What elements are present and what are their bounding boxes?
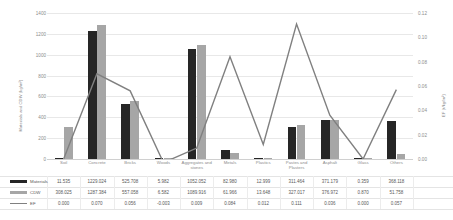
x-axis-label: Concrete — [80, 160, 113, 165]
table-cell: 0.056 — [114, 198, 147, 209]
table-cell: 376.972 — [313, 187, 346, 198]
table-cell: 371.179 — [313, 176, 346, 187]
table-cell: 6.582 — [147, 187, 180, 198]
y-tick-left-0: 0 — [43, 157, 46, 162]
table-cell: 0.000 — [47, 198, 80, 209]
table-cell: 525.708 — [114, 176, 147, 187]
chart-container: Materials and CDW (kg/m²) EF (t/kg/m²) 0… — [0, 0, 453, 220]
x-axis-label: Asphalt — [313, 160, 346, 165]
ef-line-series — [47, 13, 413, 159]
table-row: CDW308.0251287.384557.0586.5821089.91661… — [0, 187, 453, 198]
y-tick-left-1: 200 — [38, 136, 46, 141]
table-cell: 0.036 — [313, 198, 346, 209]
table-cell: 1089.916 — [180, 187, 213, 198]
table-row-separator — [0, 209, 453, 210]
table-cell: 0.111 — [280, 198, 313, 209]
table-cell: 5.982 — [147, 176, 180, 187]
y-tick-right-1: 0.02 — [418, 132, 427, 137]
table-cell: 0.000 — [346, 198, 379, 209]
table-cell: 61.966 — [213, 187, 246, 198]
table-cell: 0.084 — [213, 198, 246, 209]
table-cell: 368.118 — [380, 176, 413, 187]
legend-swatch-cdw — [10, 191, 27, 194]
x-axis-label: Metals — [213, 160, 246, 165]
y-tick-right-6: 0.12 — [418, 11, 427, 16]
table-cell: 311.464 — [280, 176, 313, 187]
y-tick-left-6: 1200 — [36, 31, 46, 36]
table-cell: 1287.384 — [80, 187, 113, 198]
y-tick-left-3: 600 — [38, 94, 46, 99]
legend-swatch-ef — [10, 203, 27, 204]
y-tick-right-0: 0.00 — [418, 157, 427, 162]
table-cell: 82.980 — [213, 176, 246, 187]
table-row: EF0.0000.0700.056-0.0030.0090.0840.0120.… — [0, 198, 453, 209]
table-cell: 0.870 — [346, 187, 379, 198]
table-cell: 557.058 — [114, 187, 147, 198]
table-cell: 308.025 — [47, 187, 80, 198]
table-cell: 12.999 — [247, 176, 280, 187]
y-tick-right-4: 0.08 — [418, 59, 427, 64]
table-cell: 0.009 — [180, 198, 213, 209]
ef-line-path — [64, 24, 397, 159]
table-cell: 1052.052 — [180, 176, 213, 187]
data-table: Materials11.5351229.024525.7085.9821052.… — [0, 176, 453, 220]
table-cell: 0.012 — [247, 198, 280, 209]
y-tick-left-5: 1000 — [36, 52, 46, 57]
table-cell: 327.017 — [280, 187, 313, 198]
table-cell: 0.070 — [80, 198, 113, 209]
table-cell: 0.057 — [380, 198, 413, 209]
x-axis-labels: SoilConcreteBricksWoodsAggregates and st… — [47, 160, 413, 176]
table-cell: 0.359 — [346, 176, 379, 187]
y-axis-ticks-left: 0200400600800100012001400 — [22, 13, 46, 159]
x-axis-label: Woods — [147, 160, 180, 165]
y-tick-left-2: 400 — [38, 115, 46, 120]
x-axis-label: Glass — [346, 160, 379, 165]
x-axis-label: Plastics — [247, 160, 280, 165]
x-axis-label: Aggregates and stones — [180, 160, 213, 170]
table-cell: 13.648 — [247, 187, 280, 198]
y-axis-ticks-right: 0.000.020.040.060.080.100.12 — [418, 13, 442, 159]
table-cell: 11.535 — [47, 176, 80, 187]
plot-area: Materials and CDW (kg/m²) EF (t/kg/m²) 0… — [0, 0, 453, 165]
table-row: Materials11.5351229.024525.7085.9821052.… — [0, 176, 453, 187]
y-tick-right-2: 0.04 — [418, 108, 427, 113]
y-tick-right-3: 0.06 — [418, 84, 427, 89]
y-tick-left-7: 1400 — [36, 11, 46, 16]
table-cell: -0.003 — [147, 198, 180, 209]
x-axis-label: Soil — [47, 160, 80, 165]
x-axis-label: Others — [380, 160, 413, 165]
x-axis-label: Bricks — [114, 160, 147, 165]
table-cell: 51.758 — [380, 187, 413, 198]
y-tick-left-4: 800 — [38, 73, 46, 78]
y-tick-right-5: 0.10 — [418, 35, 427, 40]
table-cell: 1229.024 — [80, 176, 113, 187]
x-axis-label: Pastes and Plasters — [280, 160, 313, 170]
legend-swatch-materials — [10, 180, 27, 183]
